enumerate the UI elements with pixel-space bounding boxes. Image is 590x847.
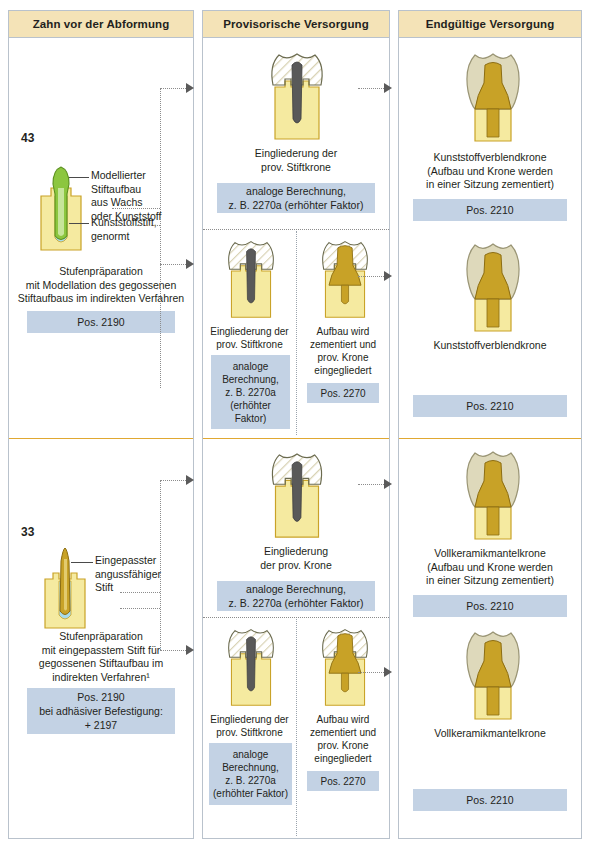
caption-middle-r3: Eingliederung der prov. Krone [203, 545, 389, 572]
panel-right-row2: Kunststoffverblendkrone Pos. 2210 [399, 233, 581, 435]
row-separator-middle-1 [203, 229, 389, 230]
column-right-header: Endgültige Versorgung [398, 10, 582, 38]
arrow-to-row4 [186, 645, 194, 655]
caption-bottom-left: Stufenpräparation mit eingepasstem Stift… [13, 630, 189, 684]
row-separator-middle-2 [203, 617, 389, 618]
connector-to-row3 [160, 480, 186, 481]
tooth-number-33: 33 [21, 525, 34, 539]
pos-box-middle-r4-right: Pos. 2270 [307, 771, 379, 791]
pos-box-right-r4: Pos. 2210 [413, 789, 567, 811]
panel-middle-row4-left: Eingliederung der prov. Stiftkrone analo… [203, 621, 296, 836]
arrow-row3-to-right [384, 479, 392, 489]
connector-to-row1 [160, 88, 186, 89]
pos-box-right-r2: Pos. 2210 [413, 395, 567, 417]
connector-from-left-bottom-b [120, 608, 160, 609]
pos-box-middle-r3: analoge Berechnung, z. B. 2270a (erhöhte… [217, 581, 375, 611]
caption-middle-r4-right: Aufbau wird zementiert und prov. Krone e… [297, 713, 389, 765]
leader-line-plastic-post [69, 223, 89, 224]
pos-box-middle-r1: analoge Berechnung, z. B. 2270a (erhöhte… [217, 183, 375, 213]
arrow-row2-to-right [384, 271, 392, 281]
tooth-cemented-core-crown-r2 [311, 239, 379, 319]
tooth-prov-post-crown-r2 [217, 239, 285, 319]
pos-box-middle-r2-left: analoge Berechnung, z. B. 2270a (erhöhte… [211, 355, 290, 429]
tooth-cemented-core-crown-r4 [311, 627, 379, 707]
connector-row3-to-right [358, 484, 384, 485]
pos-box-right-r1: Pos. 2210 [413, 199, 567, 221]
leader-label-fitted-castable-post: Eingepasster angussfähiger Stift [95, 554, 191, 595]
section-divider-left [9, 438, 193, 439]
tooth-43-illustration [31, 166, 91, 251]
column-middle-title: Provisorische Versorgung [223, 18, 369, 30]
flowchart-sheet: Zahn vor der Abformung 43 Modellierter S… [0, 0, 590, 847]
column-middle: Provisorische Versorgung Eingliederung d… [202, 10, 390, 839]
panel-right-row4: Vollkeramikmantelkrone Pos. 2210 [399, 621, 581, 836]
leader-label-plastic-post: Kunststoffstift, genormt [91, 216, 191, 243]
column-left: Zahn vor der Abformung 43 Modellierter S… [8, 10, 194, 839]
panel-right-row3: Vollkeramikmantelkrone (Aufbau und Krone… [399, 443, 581, 615]
caption-middle-r2-left: Eingliederung der prov. Stiftkrone [203, 325, 296, 351]
tooth-33-illustration [37, 547, 97, 629]
connector-to-row4 [160, 650, 186, 651]
panel-middle-row2-left: Eingliederung der prov. Stiftkrone analo… [203, 233, 296, 435]
leader-label-wax-post-buildup: Modellierter Stiftaufbau aus Wachs oder … [91, 169, 191, 223]
arrow-row1-to-right [384, 83, 392, 93]
tooth-final-crown-core-r4 [455, 629, 531, 721]
column-middle-header: Provisorische Versorgung [202, 10, 390, 38]
pos-box-middle-r2-right: Pos. 2270 [307, 383, 379, 403]
pos-box-top-left: Pos. 2190 [27, 311, 175, 333]
leader-line-fitted-post [71, 562, 93, 563]
caption-middle-r1: Eingliederung der prov. Stiftkrone [203, 147, 389, 174]
connector-row2-to-right [358, 276, 384, 277]
connector-from-left-top-a [112, 208, 160, 209]
tooth-final-crown-post-r3 [455, 449, 531, 541]
connector-trunk-top [160, 88, 161, 388]
caption-right-r1: Kunststoffverblendkrone (Aufbau und Kron… [399, 151, 581, 192]
section-divider-right [399, 438, 581, 439]
connector-from-left-bottom-a [120, 592, 160, 593]
caption-top-left: Stufenpräparation mit Modellation des ge… [13, 265, 189, 306]
panel-middle-row3: Eingliederung der prov. Krone analoge Be… [203, 443, 389, 615]
arrow-to-row1 [186, 83, 194, 93]
pos-box-bottom-left: Pos. 2190 bei adhäsiver Befestigung: + 2… [27, 688, 175, 734]
caption-right-r2: Kunststoffverblendkrone [399, 339, 581, 353]
tooth-prov-post-crown-r3 [259, 451, 335, 539]
column-right-title: Endgültige Versorgung [426, 18, 555, 30]
panel-middle-row1: Eingliederung der prov. Stiftkrone analo… [203, 41, 389, 227]
caption-middle-r2-right: Aufbau wird zementiert und prov. Krone e… [297, 325, 389, 377]
tooth-final-crown-post-r1 [455, 51, 531, 143]
arrow-row4-to-right [384, 667, 392, 677]
connector-row4-to-right [358, 672, 384, 673]
section-divider-middle [203, 438, 389, 439]
arrow-to-row3 [186, 475, 194, 485]
pos-box-middle-r4-left: analoge Berechnung, z. B. 2270a (erhöhte… [209, 743, 292, 805]
arrow-to-row2 [186, 259, 194, 269]
connector-to-row2 [160, 264, 186, 265]
connector-trunk-bottom [160, 480, 161, 650]
column-right: Endgültige Versorgung Kunststoffverblend… [398, 10, 582, 839]
connector-row1-to-right [358, 88, 384, 89]
caption-middle-r4-left: Eingliederung der prov. Stiftkrone [203, 713, 296, 739]
tooth-number-43: 43 [21, 131, 34, 145]
panel-right-row1: Kunststoffverblendkrone (Aufbau und Kron… [399, 41, 581, 227]
panel-middle-row2-right: Aufbau wird zementiert und prov. Krone e… [297, 233, 389, 435]
column-left-title: Zahn vor der Abformung [33, 18, 170, 30]
tooth-prov-post-crown-r4 [217, 627, 285, 707]
caption-right-r4: Vollkeramikmantelkrone [399, 727, 581, 741]
tooth-prov-post-crown-r1 [259, 51, 335, 141]
column-left-header: Zahn vor der Abformung [8, 10, 194, 38]
caption-right-r3: Vollkeramikmantelkrone (Aufbau und Krone… [399, 547, 581, 588]
leader-line-wax [69, 177, 89, 178]
tooth-final-crown-core-r2 [455, 241, 531, 333]
panel-middle-row4-right: Aufbau wird zementiert und prov. Krone e… [297, 621, 389, 836]
pos-box-right-r3: Pos. 2210 [413, 595, 567, 617]
connector-from-left-top-b [112, 225, 160, 226]
